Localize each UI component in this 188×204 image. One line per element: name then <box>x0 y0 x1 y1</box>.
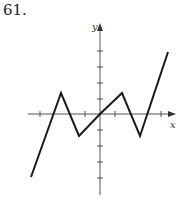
graph: y x <box>0 0 188 204</box>
y-axis-arrow-icon <box>97 23 103 31</box>
y-axis <box>97 23 103 195</box>
x-axis-arrow-icon <box>168 111 176 117</box>
y-axis-label: y <box>91 21 98 32</box>
x-axis-label: x <box>170 119 176 130</box>
